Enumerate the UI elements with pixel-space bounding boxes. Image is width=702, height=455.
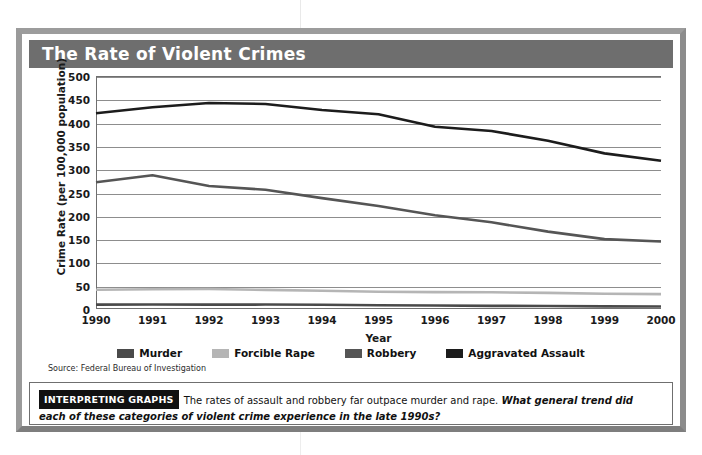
caption-plain-text: The rates of assault and robbery far out… (184, 395, 499, 406)
y-axis-tick-label: 50 (75, 281, 90, 293)
chart-legend: MurderForcible RapeRobberyAggravated Ass… (29, 347, 673, 359)
interpreting-graphs-box: INTERPRETING GRAPHSThe rates of assault … (29, 382, 673, 425)
x-axis-tick-label: 2000 (646, 314, 675, 326)
y-axis-tick-label: 450 (68, 94, 90, 106)
y-axis-tick-label: 250 (68, 188, 90, 200)
x-axis-tick-label: 1996 (420, 314, 449, 326)
series-line-forcible-rape (96, 289, 661, 294)
x-axis-tick-label: 1990 (81, 314, 110, 326)
x-axis-tick-label: 1993 (251, 314, 280, 326)
figure-inner: The Rate of Violent Crimes Crime Rate (p… (22, 34, 680, 426)
x-axis-tick-label: 1991 (138, 314, 167, 326)
x-axis-tick-label: 1997 (477, 314, 506, 326)
y-axis-tick-label: 400 (68, 118, 90, 130)
y-axis-tick-label: 100 (68, 257, 90, 269)
legend-label: Murder (139, 347, 182, 359)
legend-item-forcible-rape[interactable]: Forcible Rape (212, 347, 315, 359)
chart-series-layer (96, 76, 661, 309)
x-axis-tick-label: 1998 (533, 314, 562, 326)
legend-label: Aggravated Assault (468, 347, 584, 359)
legend-label: Forcible Rape (234, 347, 315, 359)
legend-label: Robbery (367, 347, 416, 359)
y-axis-tick-label: 350 (68, 141, 90, 153)
series-line-aggravated-assault (96, 103, 661, 161)
y-axis-tick-label: 150 (68, 234, 90, 246)
x-axis-tick-label: 1995 (364, 314, 393, 326)
x-axis-tick-label: 1999 (590, 314, 619, 326)
figure-title: The Rate of Violent Crimes (29, 44, 306, 64)
legend-swatch (117, 349, 134, 358)
caption-text: INTERPRETING GRAPHSThe rates of assault … (39, 390, 663, 424)
legend-item-aggravated-assault[interactable]: Aggravated Assault (446, 347, 584, 359)
page-edge-artifact-bottom (300, 432, 301, 455)
plot-wrap: 500450400350300250200150100500 199019911… (96, 76, 661, 318)
series-line-robbery (96, 175, 661, 241)
x-axis-tick-label: 1992 (194, 314, 223, 326)
series-line-murder (96, 304, 661, 306)
figure-card: The Rate of Violent Crimes Crime Rate (p… (16, 28, 686, 432)
y-axis-tick-label: 200 (68, 211, 90, 223)
page-edge-artifact-top (300, 0, 301, 28)
x-axis-tick-label: 1994 (307, 314, 336, 326)
legend-item-robbery[interactable]: Robbery (345, 347, 416, 359)
legend-swatch (446, 349, 463, 358)
y-axis-title: Crime Rate (per 100,000 population) (55, 61, 67, 276)
legend-item-murder[interactable]: Murder (117, 347, 182, 359)
legend-swatch (212, 349, 229, 358)
y-axis-tick-label: 300 (68, 164, 90, 176)
y-axis-tick-label: 500 (68, 71, 90, 83)
source-note: Source: Federal Bureau of Investigation (48, 364, 206, 373)
chart-region: Crime Rate (per 100,000 population) 5004… (29, 72, 673, 377)
legend-swatch (345, 349, 362, 358)
figure-title-bar: The Rate of Violent Crimes (29, 40, 673, 68)
interpreting-graphs-badge: INTERPRETING GRAPHS (39, 390, 179, 409)
x-axis-title: Year (96, 332, 661, 344)
